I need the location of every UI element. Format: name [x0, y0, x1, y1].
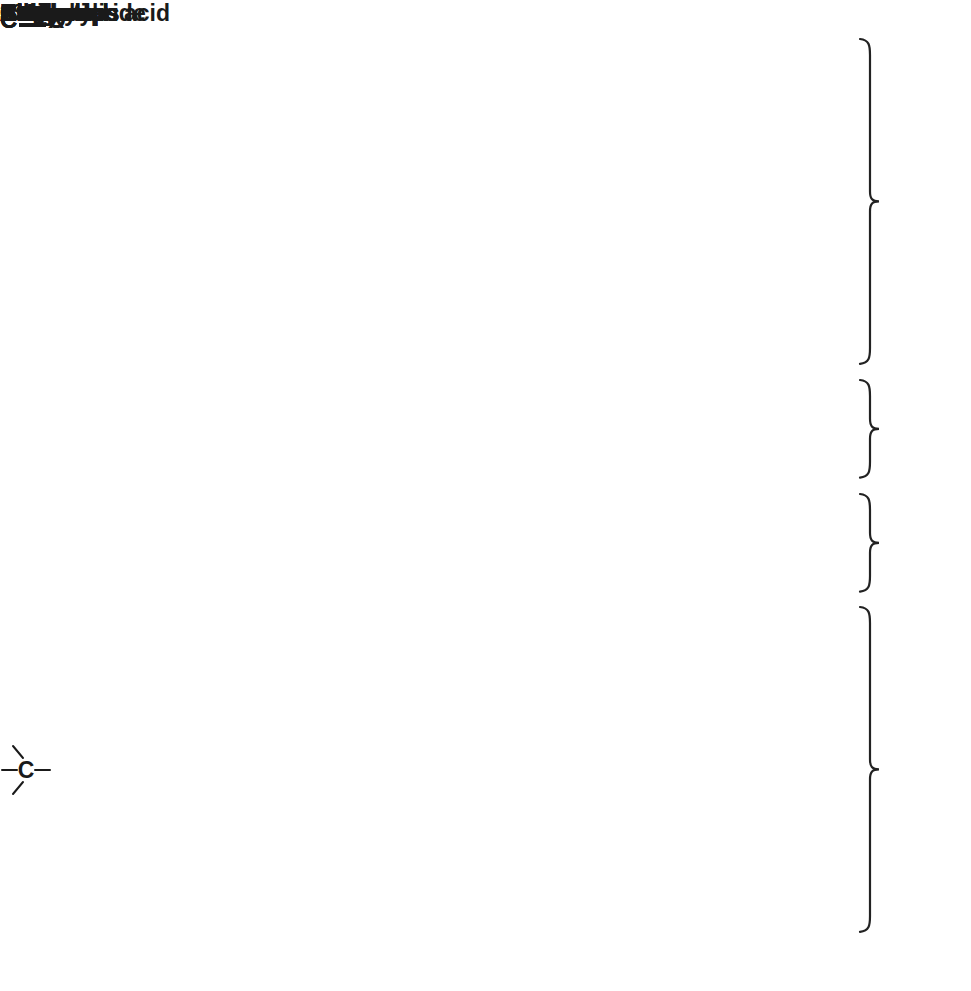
triple-bond-icon	[19, 8, 46, 32]
c13-nmr-shift-chart: KetoneAldehydeCarboxylic acidAcid chlori…	[0, 0, 971, 991]
group-label-atom: X	[48, 6, 64, 34]
triple-bond-line	[19, 25, 46, 27]
triple-bond-line	[19, 19, 46, 21]
group-brace	[856, 492, 882, 594]
group-brace	[856, 37, 882, 366]
triple-bond-line	[19, 13, 46, 15]
group-brace	[856, 605, 882, 934]
group-label-atom: C	[0, 6, 17, 34]
svg-text:C: C	[18, 757, 35, 783]
sp3-carbon-icon: C	[0, 740, 52, 800]
[object Object]: CX	[0, 0, 64, 40]
group-brace	[856, 378, 882, 480]
[object Object]: C	[0, 740, 52, 800]
